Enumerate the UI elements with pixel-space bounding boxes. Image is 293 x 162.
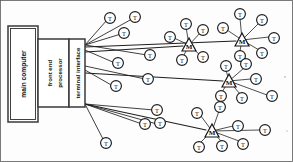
terminal-label: T [158,120,162,127]
terminal-label: T [263,127,267,134]
terminal-node[interactable]: T [143,74,154,85]
terminal-node[interactable]: T [165,32,176,43]
mux-2-cluster: M T T T T [218,9,280,62]
terminal-node[interactable]: T [257,15,268,26]
terminal-label: T [114,83,118,90]
terminal-label: T [220,143,224,150]
mux-3-label: M [226,79,233,87]
terminal-label: T [133,14,137,21]
terminal-node[interactable]: T [111,81,122,92]
terminal-node[interactable]: T [269,33,280,44]
terminal-label: T [244,61,248,68]
terminal-label: T [260,50,264,57]
mux-4-spokes [200,111,260,143]
terminal-label: T [104,140,108,147]
terminal-label: T [108,15,112,22]
terminal-node[interactable]: T [237,93,248,104]
terminal-node[interactable]: T [198,52,209,63]
terminal-node[interactable]: T [198,25,209,36]
terminal-label: T [219,93,223,100]
terminal-node[interactable]: T [267,91,278,102]
terminal-label: T [146,76,150,83]
terminal-node[interactable]: T [145,50,156,61]
terminal-node[interactable]: T [218,23,229,34]
main-computer-box[interactable]: main computer [8,26,38,122]
terminal-node[interactable]: T [152,105,163,116]
terminal-label: T [201,54,205,61]
mux-2-label: M [239,38,246,46]
terminal-label: T [197,144,201,151]
terminal-node[interactable]: T [216,91,227,102]
terminal-node[interactable]: T [215,102,226,113]
terminal-label: T [260,17,264,24]
terminal-node[interactable]: T [235,9,246,20]
network-topology-figure: main computer front end processor termin… [0,0,293,162]
terminal-label: T [168,34,172,41]
terminal-label: T [240,95,244,102]
terminal-label: T [218,104,222,111]
terminal-label: T [143,121,147,128]
diagram-canvas: main computer front end processor termin… [0,0,293,162]
terminal-node[interactable]: T [140,119,151,130]
terminal-label: T [116,60,120,67]
mux-4-cluster: M T T T T [192,102,271,153]
scan-specks [284,76,287,131]
terminal-label: T [241,141,245,148]
main-computer-label: main computer [20,50,28,98]
terminal-label: T [272,35,276,42]
terminal-node[interactable]: T [238,139,249,150]
terminal-label: T [270,93,274,100]
terminal-node[interactable]: T [130,12,141,23]
terminal-node[interactable]: T [217,141,228,152]
terminal-node[interactable]: T [194,142,205,153]
terminal-interface-box[interactable]: terminal interface [69,39,85,107]
terminal-node[interactable]: T [177,55,188,66]
terminal-label: T [238,11,242,18]
terminal-label: T [122,30,126,37]
terminal-node[interactable]: T [181,19,192,30]
direct-terminals: T T T T T T T [101,12,166,149]
terminal-label: T [254,76,258,83]
mux-1-label: M [186,43,193,51]
terminal-node[interactable]: T [233,121,244,132]
terminal-node[interactable]: T [101,138,112,149]
terminal-node[interactable]: T [192,108,203,119]
terminal-label: T [195,110,199,117]
terminal-node[interactable]: T [105,13,116,24]
terminal-node[interactable]: T [113,58,124,69]
terminal-label: T [180,57,184,64]
terminal-label: T [148,52,152,59]
mux-2-terminals: T T T T T [218,9,280,62]
front-end-processor-label-line1: front end [46,60,53,87]
terminal-node[interactable]: T [257,48,268,59]
front-end-processor-label-line2: processor [56,58,63,88]
terminal-label: T [155,107,159,114]
terminal-node[interactable]: T [251,74,262,85]
terminal-node[interactable]: T [241,59,252,70]
terminal-interface-label: terminal interface [74,47,81,98]
mux-4-label: M [209,129,216,137]
terminal-node[interactable]: T [119,28,130,39]
mux-4-terminals: T T T T T [192,102,271,153]
terminal-label: T [221,25,225,32]
terminal-label: T [201,27,205,34]
terminal-node[interactable]: T [260,125,271,136]
mux-3-cluster: M T T T T [216,59,278,104]
terminal-label: T [184,21,188,28]
terminal-node[interactable]: T [155,118,166,129]
terminal-label: T [224,63,228,70]
terminal-node[interactable]: T [221,61,232,72]
terminal-label: T [238,53,242,60]
terminal-label: T [236,123,240,130]
front-end-processor-box[interactable]: front end processor [38,39,69,107]
